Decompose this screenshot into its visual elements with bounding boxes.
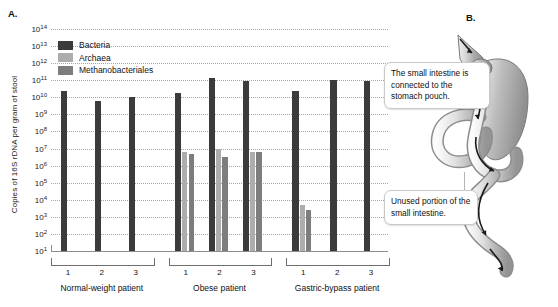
subject-number-2-1: 2	[335, 268, 339, 277]
bar-bacteria-8	[364, 81, 370, 251]
callout-small-intestine-connection: The small intestine is connected to the …	[384, 62, 490, 109]
legend-item-methanobacteriales: Methanobacteriales	[58, 64, 153, 77]
gridline-1e9	[51, 114, 388, 115]
legend-swatch-icon-1	[58, 53, 73, 62]
subject-number-0-2: 3	[133, 268, 137, 277]
gridline-1e10	[51, 97, 388, 98]
legend-item-archaea: Archaea	[58, 52, 153, 65]
group-bracket-2	[286, 258, 390, 266]
legend-label: Archaea	[79, 53, 111, 63]
bar-bacteria-6	[292, 91, 298, 251]
subject-number-0-0: 1	[66, 268, 70, 277]
y-axis-label: Copies of 16S rDNA per gram of stool	[10, 45, 19, 245]
group-bracket-0	[51, 258, 155, 266]
panel-b-anatomy: B.	[400, 0, 558, 307]
x-axis-line	[51, 251, 388, 252]
subject-number-2-2: 3	[369, 268, 373, 277]
bar-methanobacteriales-5	[256, 152, 261, 251]
subject-number-2-0: 1	[301, 268, 305, 277]
panel-a-label: A.	[8, 8, 18, 19]
callout-unused-portion: Unused portion of the small intestine.	[384, 190, 478, 225]
bar-bacteria-1	[95, 101, 101, 251]
bar-bacteria-4	[209, 78, 215, 251]
y-tick-1e12: 1012	[31, 58, 47, 69]
chart-panel-a: A. Copies of 16S rDNA per gram of stool …	[0, 0, 400, 307]
subject-number-1-0: 1	[183, 268, 187, 277]
gridline-1e8	[51, 131, 388, 132]
bar-bacteria-3	[175, 93, 181, 251]
bar-bacteria-2	[129, 97, 135, 251]
subject-number-0-1: 2	[100, 268, 104, 277]
bar-archaea-5	[250, 152, 255, 251]
bar-methanobacteriales-4	[222, 157, 227, 251]
group-label-1: Obese patient	[193, 283, 246, 293]
gridline-1e14	[51, 29, 388, 30]
subject-number-1-1: 2	[217, 268, 221, 277]
y-tick-1e4: 104	[35, 194, 47, 205]
legend-swatch-icon-2	[58, 66, 73, 75]
bar-archaea-4	[216, 149, 221, 251]
legend-label: Bacteria	[79, 40, 110, 50]
legend-swatch-icon-0	[58, 41, 73, 50]
y-tick-1e9: 109	[35, 109, 47, 120]
chart-legend: BacteriaArchaeaMethanobacteriales	[58, 39, 153, 77]
bar-methanobacteriales-6	[306, 210, 311, 251]
group-bracket-1	[169, 258, 273, 266]
y-tick-1e1: 101	[35, 246, 47, 257]
bar-bacteria-0	[61, 91, 67, 251]
bar-archaea-6	[300, 205, 305, 251]
y-tick-1e6: 106	[35, 160, 47, 171]
bar-bacteria-7	[330, 80, 336, 251]
y-tick-1e11: 1011	[32, 75, 47, 86]
y-tick-1e3: 103	[35, 212, 47, 223]
legend-label: Methanobacteriales	[79, 65, 153, 75]
group-label-0: Normal-weight patient	[60, 283, 143, 293]
bar-bacteria-5	[243, 81, 249, 251]
y-tick-1e5: 105	[35, 177, 47, 188]
y-tick-1e13: 1013	[31, 41, 47, 52]
panel-b-label: B.	[466, 12, 476, 23]
y-tick-1e14: 1014	[31, 24, 47, 35]
legend-item-bacteria: Bacteria	[58, 39, 153, 52]
y-tick-1e8: 108	[35, 126, 47, 137]
subject-number-1-2: 3	[251, 268, 255, 277]
gridline-1e11	[51, 80, 388, 81]
y-tick-1e2: 102	[35, 229, 47, 240]
y-axis-line	[51, 245, 52, 251]
y-tick-1e7: 107	[35, 143, 47, 154]
y-tick-1e10: 1010	[31, 92, 47, 103]
group-label-2: Gastric-bypass patient	[295, 283, 380, 293]
bar-methanobacteriales-3	[189, 154, 194, 251]
bar-archaea-3	[182, 152, 187, 251]
